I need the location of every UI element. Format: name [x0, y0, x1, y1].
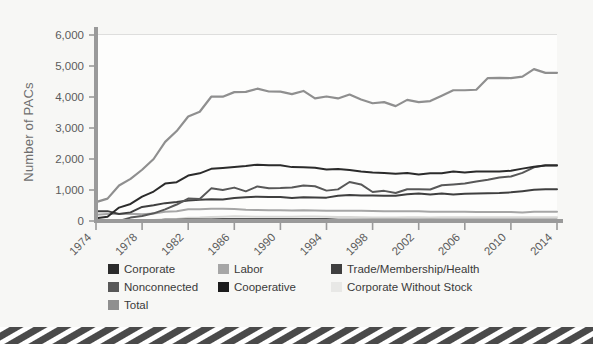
- y-tick-label: 4,000: [55, 91, 84, 103]
- y-axis-title: Number of PACs: [21, 82, 36, 182]
- legend-swatch: [331, 264, 342, 274]
- legend-label: Cooperative: [234, 281, 296, 293]
- pac-line-chart: 01,0002,0003,0004,0005,0006,000 19741978…: [0, 0, 593, 344]
- legend-swatch: [108, 264, 119, 274]
- legend-label: Corporate Without Stock: [347, 281, 473, 293]
- legend-swatch: [218, 282, 229, 292]
- y-tick-label: 6,000: [55, 29, 84, 41]
- y-tick-label: 1,000: [55, 184, 84, 196]
- legend-label: Corporate: [124, 263, 175, 275]
- y-tick-label: 5,000: [55, 60, 84, 72]
- legend-label: Labor: [234, 263, 264, 275]
- y-tick-label: 0: [78, 215, 84, 227]
- legend-swatch: [108, 282, 119, 292]
- chart-figure: 01,0002,0003,0004,0005,0006,000 19741978…: [0, 0, 593, 344]
- legend-label: Nonconnected: [124, 281, 198, 293]
- legend-swatch: [218, 264, 229, 274]
- legend-label: Trade/Membership/Health: [347, 263, 480, 275]
- legend-label: Total: [124, 299, 148, 311]
- legend-swatch: [108, 300, 119, 310]
- y-tick-label: 3,000: [55, 122, 84, 134]
- decorative-hatched-strip: [0, 327, 593, 344]
- y-tick-label: 2,000: [55, 153, 84, 165]
- legend-swatch: [331, 282, 342, 292]
